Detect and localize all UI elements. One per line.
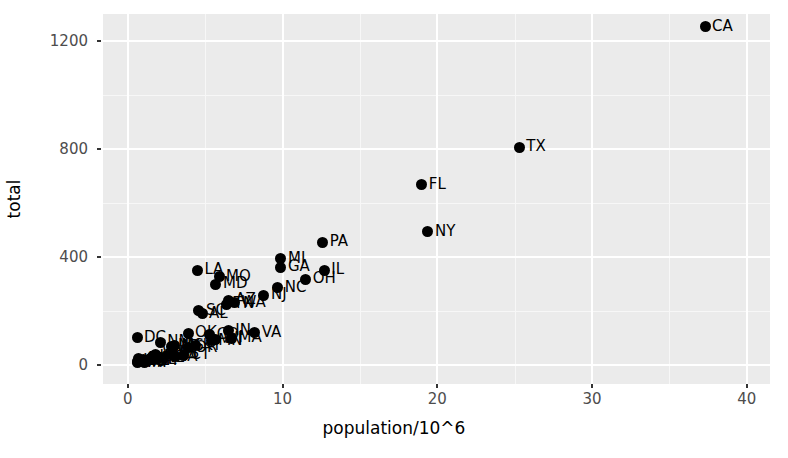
y-tick-label: 1200 xyxy=(0,34,88,49)
x-tick-label: 40 xyxy=(737,392,756,407)
data-point xyxy=(416,179,427,190)
y-tick-mark xyxy=(97,256,101,258)
gridline-minor-vertical xyxy=(515,14,516,384)
point-label: OH xyxy=(313,271,336,286)
data-point xyxy=(192,265,203,276)
plot-panel: CATXFLNYPAMIGAILOHLAMOMDNCNJSCAZWATNALIN… xyxy=(103,14,770,384)
point-label: NJ xyxy=(271,287,287,302)
data-point xyxy=(700,21,711,32)
y-tick-mark xyxy=(97,40,101,42)
point-label: MA xyxy=(238,330,261,345)
x-tick-label: 30 xyxy=(582,392,601,407)
y-tick-mark xyxy=(97,148,101,150)
point-label: TX xyxy=(526,139,545,154)
gridline-minor-vertical xyxy=(360,14,361,384)
x-tick-mark xyxy=(282,384,284,388)
data-point xyxy=(197,308,208,319)
point-label: AL xyxy=(209,306,228,321)
data-point xyxy=(210,279,221,290)
data-point xyxy=(226,333,237,344)
point-label: FL xyxy=(429,177,446,192)
x-tick-mark xyxy=(436,384,438,388)
x-tick-mark xyxy=(746,384,748,388)
point-label: GA xyxy=(288,259,310,274)
x-tick-label: 20 xyxy=(428,392,447,407)
gridline-major-horizontal xyxy=(103,148,770,150)
gridline-major-vertical xyxy=(127,14,129,384)
point-label: MD xyxy=(223,276,248,291)
x-tick-label: 10 xyxy=(273,392,292,407)
gridline-major-horizontal xyxy=(103,256,770,258)
y-tick-mark xyxy=(97,364,101,366)
gridline-major-horizontal xyxy=(103,364,770,366)
x-tick-label: 0 xyxy=(123,392,133,407)
point-label: PA xyxy=(330,234,348,249)
data-point xyxy=(275,262,286,273)
point-label: CA xyxy=(712,19,733,34)
gridline-major-horizontal xyxy=(103,40,770,42)
data-point xyxy=(514,142,525,153)
x-axis-title: population/10^6 xyxy=(0,418,788,438)
gridline-major-vertical xyxy=(282,14,284,384)
y-tick-label: 400 xyxy=(0,250,88,265)
gridline-major-vertical xyxy=(591,14,593,384)
data-point xyxy=(317,237,328,248)
scatter-plot-figure: CATXFLNYPAMIGAILOHLAMOMDNCNJSCAZWATNALIN… xyxy=(0,0,788,458)
point-label: NY xyxy=(435,224,455,239)
y-tick-label: 0 xyxy=(0,358,88,373)
data-point xyxy=(132,332,143,343)
point-label: VA xyxy=(262,325,282,340)
gridline-minor-vertical xyxy=(669,14,670,384)
gridline-major-vertical xyxy=(436,14,438,384)
y-axis-title: total xyxy=(4,180,24,219)
point-label: TN xyxy=(234,296,254,311)
data-point xyxy=(422,226,433,237)
x-tick-mark xyxy=(127,384,129,388)
x-tick-mark xyxy=(591,384,593,388)
point-label: RI xyxy=(152,355,167,370)
point-label: NC xyxy=(285,280,307,295)
y-tick-label: 800 xyxy=(0,142,88,157)
gridline-major-vertical xyxy=(746,14,748,384)
